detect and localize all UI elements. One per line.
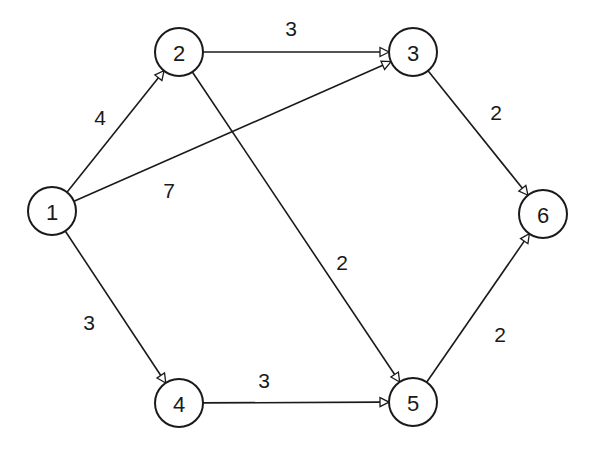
node-label: 4 <box>173 392 185 417</box>
node-label: 6 <box>537 203 549 228</box>
graph-diagram: 123456 47332232 <box>0 0 594 454</box>
edge-3-6 <box>428 71 528 196</box>
node-label: 3 <box>407 41 419 66</box>
node-5: 5 <box>389 378 437 426</box>
edge-line <box>427 241 525 382</box>
edge-5-6 <box>427 234 530 383</box>
edge-line <box>203 402 380 403</box>
node-label: 5 <box>407 391 419 416</box>
node-label: 1 <box>46 200 58 225</box>
edge-weight-label: 3 <box>83 311 95 334</box>
edge-weight-label: 7 <box>163 179 175 202</box>
edge-labels-layer: 47332232 <box>83 17 506 392</box>
edge-line <box>67 78 158 192</box>
edge-1-4 <box>65 231 166 383</box>
nodes-layer: 123456 <box>28 28 567 427</box>
edge-line <box>74 65 383 201</box>
edge-weight-label: 3 <box>285 17 297 40</box>
arrowhead-icon <box>380 48 389 57</box>
edges-layer <box>65 48 529 407</box>
arrowhead-icon <box>155 71 164 81</box>
edge-weight-label: 2 <box>494 323 506 346</box>
edge-2-3 <box>203 48 389 57</box>
arrowhead-icon <box>521 234 530 244</box>
edge-1-2 <box>67 71 164 192</box>
edge-2-5 <box>192 72 399 382</box>
edge-weight-label: 2 <box>336 251 348 274</box>
arrowhead-icon <box>391 372 400 382</box>
edge-line <box>192 72 394 375</box>
edge-line <box>428 71 522 189</box>
node-label: 2 <box>173 41 185 66</box>
arrowhead-icon <box>157 373 166 383</box>
edge-4-5 <box>203 398 389 407</box>
edge-line <box>65 231 161 375</box>
arrowhead-icon <box>381 61 391 69</box>
edge-weight-label: 4 <box>94 106 106 129</box>
edge-weight-label: 2 <box>490 101 502 124</box>
node-2: 2 <box>155 28 203 76</box>
arrowhead-icon <box>519 185 528 195</box>
node-4: 4 <box>155 379 203 427</box>
edge-weight-label: 3 <box>258 369 270 392</box>
node-1: 1 <box>28 187 76 235</box>
node-3: 3 <box>389 28 437 76</box>
arrowhead-icon <box>380 398 389 407</box>
node-6: 6 <box>519 190 567 238</box>
